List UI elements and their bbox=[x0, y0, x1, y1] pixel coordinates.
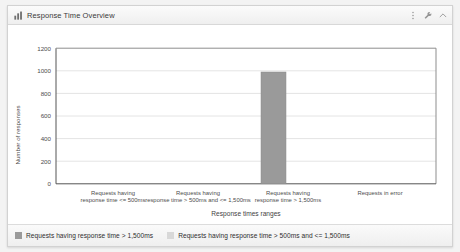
x-category-line: response time <= 500ms bbox=[81, 197, 146, 203]
bar-requests-over-1500ms[interactable] bbox=[261, 72, 286, 184]
y-tick-800: 800 bbox=[41, 90, 436, 97]
x-category-line: Requests having bbox=[266, 190, 310, 196]
x-axis-categories: Requests having response time <= 500ms R… bbox=[81, 190, 403, 204]
bar-chart-icon bbox=[14, 11, 23, 20]
y-tick-label: 600 bbox=[41, 112, 52, 119]
y-tick-label: 800 bbox=[41, 90, 52, 97]
panel-header-tools bbox=[409, 6, 447, 25]
y-tick-label: 400 bbox=[41, 135, 52, 142]
x-category-line: Requests having bbox=[91, 190, 135, 196]
panel-title-group: Response Time Overview bbox=[14, 11, 115, 20]
screenshot-root: Response Time Overview bbox=[0, 0, 460, 252]
y-tick-1000: 1000 bbox=[37, 67, 436, 74]
y-tick-400: 400 bbox=[41, 135, 436, 142]
chart-area: Number of responses 1200 1000 800 bbox=[8, 25, 452, 223]
legend-swatch-icon bbox=[15, 232, 22, 239]
panel-header: Response Time Overview bbox=[8, 6, 452, 25]
y-tick-0: 0 bbox=[48, 180, 52, 187]
x-category-label-1: Requests having response time <= 500ms bbox=[81, 190, 146, 204]
y-axis-title: Number of responses bbox=[14, 105, 21, 164]
x-axis-title: Response times ranges bbox=[211, 210, 281, 218]
bars-group bbox=[261, 72, 286, 184]
chevron-up-icon[interactable] bbox=[439, 11, 447, 20]
legend-item[interactable]: Requests having response time > 1,500ms bbox=[15, 232, 153, 239]
y-axis-ticks: 1200 1000 800 600 400 bbox=[37, 45, 436, 188]
y-tick-label: 0 bbox=[48, 180, 52, 187]
y-tick-600: 600 bbox=[41, 112, 436, 119]
y-tick-label: 1000 bbox=[37, 67, 51, 74]
x-category-line: Requests in error bbox=[357, 190, 402, 196]
y-tick-label: 1200 bbox=[37, 45, 51, 52]
legend-item[interactable]: Requests having response time > 500ms an… bbox=[167, 232, 350, 239]
wrench-icon[interactable] bbox=[424, 11, 432, 20]
x-category-line: Requests having bbox=[176, 190, 220, 196]
y-tick-1200: 1200 bbox=[37, 45, 51, 52]
y-tick-200: 200 bbox=[41, 158, 436, 165]
x-category-line: response time > 500ms and <= 1,500ms bbox=[145, 197, 251, 203]
response-time-overview-panel: Response Time Overview bbox=[7, 5, 453, 247]
x-category-line: response time > 1,500ms bbox=[255, 197, 321, 203]
chart-legend: Requests having response time > 1,500ms … bbox=[8, 224, 452, 246]
response-time-bar-chart: Number of responses 1200 1000 800 bbox=[8, 25, 452, 223]
y-tick-label: 200 bbox=[41, 158, 52, 165]
legend-swatch-icon bbox=[167, 232, 174, 239]
legend-item-label: Requests having response time > 500ms an… bbox=[178, 232, 350, 239]
legend-item-label: Requests having response time > 1,500ms bbox=[26, 232, 153, 239]
x-category-label-2: Requests having response time > 500ms an… bbox=[145, 190, 251, 204]
x-category-label-4: Requests in error bbox=[357, 190, 402, 196]
more-options-icon[interactable] bbox=[409, 11, 417, 20]
page-title: Response Time Overview bbox=[27, 11, 115, 20]
x-category-label-3: Requests having response time > 1,500ms bbox=[255, 190, 321, 204]
